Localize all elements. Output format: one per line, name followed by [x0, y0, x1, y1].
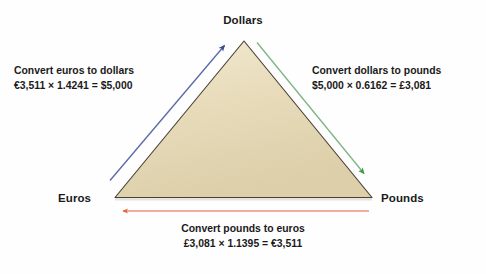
- caption-euros-to-dollars-equation: €3,511 × 1.4241 = $5,000: [14, 79, 134, 94]
- figure-canvas: Dollars Euros Pounds Convert euros to do…: [0, 0, 486, 274]
- caption-pounds-to-euros: Convert pounds to euros £3,081 × 1.1395 …: [0, 222, 486, 251]
- caption-pounds-to-euros-equation: £3,081 × 1.1395 = €3,511: [0, 237, 486, 252]
- caption-euros-to-dollars: Convert euros to dollars €3,511 × 1.4241…: [14, 64, 134, 93]
- triangle-base-shadow: [115, 198, 372, 201]
- caption-dollars-to-pounds-title: Convert dollars to pounds: [312, 64, 441, 79]
- caption-dollars-to-pounds: Convert dollars to pounds $5,000 × 0.616…: [312, 64, 441, 93]
- caption-pounds-to-euros-title: Convert pounds to euros: [0, 222, 486, 237]
- caption-dollars-to-pounds-equation: $5,000 × 0.6162 = £3,081: [312, 79, 441, 94]
- caption-euros-to-dollars-title: Convert euros to dollars: [14, 64, 134, 79]
- vertex-label-pounds: Pounds: [381, 192, 424, 204]
- vertex-label-dollars: Dollars: [0, 14, 486, 26]
- vertex-label-euros: Euros: [58, 192, 91, 204]
